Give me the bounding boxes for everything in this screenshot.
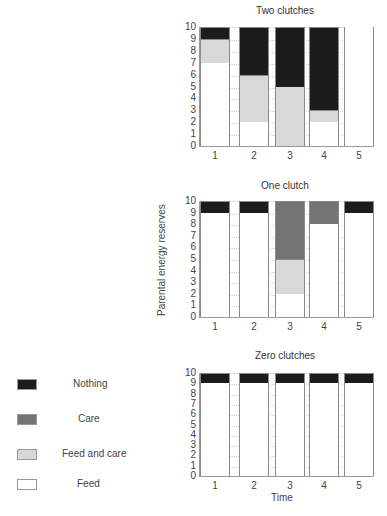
y-tick-label: 5 [180,82,196,92]
bar-segment-feedcare [200,39,230,63]
bar-time-2 [239,201,269,317]
y-tick-label: 0 [180,471,196,481]
y-tick-label: 3 [180,105,196,115]
bar-time-5 [344,373,374,476]
legend-label: Nothing [73,378,107,389]
bar-segment-feed [344,27,374,146]
bar-segment-nothing [275,27,305,87]
y-tick-label: 6 [180,409,196,419]
bar-time-2 [239,27,269,146]
bar-segment-care [309,201,339,224]
x-tick-label: 3 [283,480,297,491]
bar-segment-feed [200,213,230,317]
bar-time-3 [275,201,305,317]
bar-segment-nothing [275,373,305,383]
bar-segment-feed [239,213,269,317]
bar-segment-nothing [239,373,269,383]
y-tick-label: 0 [180,312,196,322]
x-tick-label: 1 [208,150,222,161]
bar-segment-feed [309,383,339,476]
y-tick-label: 2 [180,450,196,460]
bar-segment-feed [275,294,305,317]
y-tick-label: 1 [180,461,196,471]
y-tick-label: 0 [180,141,196,151]
x-axis-label: Time [271,492,293,503]
y-tick-label: 6 [180,242,196,252]
legend-swatch-feedcare [17,449,37,460]
bar-segment-feedcare [275,259,305,294]
y-tick-label: 6 [180,70,196,80]
x-tick-label: 2 [247,480,261,491]
bar-segment-feed [309,224,339,317]
y-tick-label: 8 [180,389,196,399]
bar-time-3 [275,27,305,146]
y-tick-label: 4 [180,430,196,440]
y-tick-label: 8 [180,46,196,56]
y-tick-label: 10 [180,22,196,32]
legend-item-feed: Feed [0,475,180,495]
bar-segment-nothing [200,373,230,383]
bar-segment-feed [200,63,230,146]
y-tick-label: 9 [180,208,196,218]
y-tick-label: 4 [180,266,196,276]
legend-swatch-nothing [17,379,37,390]
bar-time-3 [275,373,305,476]
legend-label: Feed and care [62,448,127,459]
legend-item-nothing: Nothing [0,375,180,395]
bar-segment-feed [239,122,269,146]
y-tick-label: 2 [180,289,196,299]
y-tick-label: 10 [180,368,196,378]
bar-segment-nothing [200,27,230,39]
bar-segment-feed [309,122,339,146]
x-tick-label: 5 [352,150,366,161]
x-tick-label: 1 [208,480,222,491]
x-tick-label: 5 [352,480,366,491]
y-tick-label: 9 [180,378,196,388]
bar-segment-care [275,201,305,259]
y-tick-label: 10 [180,196,196,206]
bar-segment-feed [344,213,374,317]
bar-segment-nothing [344,373,374,383]
x-tick-label: 3 [283,321,297,332]
chart-title: Zero clutches [230,350,340,361]
chart-title: One clutch [230,180,340,191]
y-tick-label: 4 [180,93,196,103]
legend-label: Care [78,413,100,424]
chart-title: Two clutches [230,5,340,16]
bar-segment-feed [200,383,230,476]
y-tick-label: 8 [180,219,196,229]
bar-time-1 [200,27,230,146]
y-tick-label: 3 [180,440,196,450]
x-tick-label: 3 [283,150,297,161]
bar-segment-feed [275,383,305,476]
x-tick-label: 5 [352,321,366,332]
bar-time-4 [309,201,339,317]
x-tick-label: 2 [247,321,261,332]
y-tick-label: 2 [180,117,196,127]
y-axis-label: Parental energy reserves [156,204,167,316]
x-tick-label: 1 [208,321,222,332]
bar-segment-feed [239,383,269,476]
bar-segment-nothing [309,27,339,110]
y-tick-label: 3 [180,277,196,287]
bar-segment-nothing [344,201,374,213]
y-tick-label: 7 [180,58,196,68]
y-tick-label: 1 [180,300,196,310]
legend-swatch-feed [17,479,37,490]
bar-time-5 [344,201,374,317]
x-tick-label: 4 [317,321,331,332]
y-tick-label: 5 [180,254,196,264]
bar-segment-nothing [239,27,269,75]
bar-time-2 [239,373,269,476]
bar-segment-feedcare [309,110,339,122]
bar-segment-feedcare [275,87,305,147]
bar-segment-feedcare [239,75,269,123]
bar-time-1 [200,201,230,317]
bar-segment-feed [344,383,374,476]
bar-time-4 [309,27,339,146]
y-tick-label: 7 [180,399,196,409]
legend-swatch-care [17,414,37,425]
bar-segment-nothing [239,201,269,213]
x-tick-label: 4 [317,150,331,161]
bar-time-4 [309,373,339,476]
